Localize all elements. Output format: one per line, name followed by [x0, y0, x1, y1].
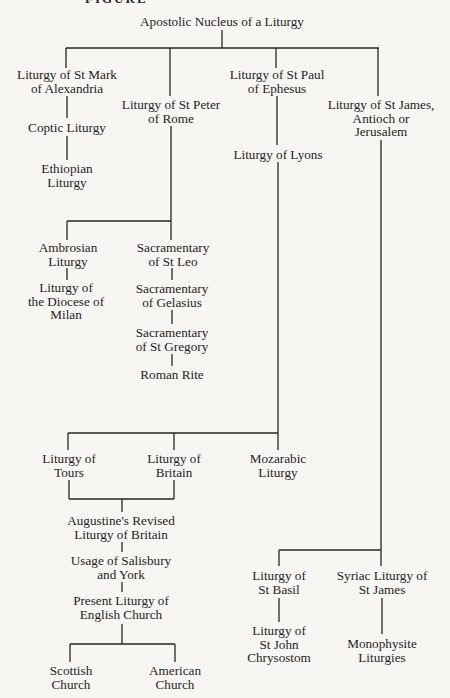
node-liturgy-st-john-chrysostom: Liturgy of St John Chrysostom — [247, 624, 311, 665]
node-label: Coptic Liturgy — [28, 121, 106, 135]
node-liturgy-of-britain: Liturgy of Britain — [147, 452, 201, 479]
node-label: Sacramentary — [136, 326, 209, 340]
node-label: Liturgy of Britain — [67, 528, 175, 542]
node-label: Monophysite — [347, 637, 417, 651]
node-monophysite-liturgies: Monophysite Liturgies — [347, 637, 417, 664]
node-liturgy-st-basil: Liturgy of St Basil — [252, 569, 306, 596]
node-label: Liturgy of — [28, 281, 104, 295]
node-label: Liturgy of — [42, 452, 96, 466]
node-label: Liturgy of Lyons — [233, 148, 322, 162]
node-apostolic-nucleus: Apostolic Nucleus of a Liturgy — [140, 15, 304, 29]
node-label: Present Liturgy of — [73, 594, 169, 608]
node-label: Liturgy of St Mark — [17, 68, 117, 82]
node-label: of Gelasius — [136, 296, 209, 310]
node-liturgy-st-james: Liturgy of St James, Antioch or Jerusale… — [328, 98, 435, 139]
node-label: Mozarabic — [250, 452, 306, 466]
node-label: of St Leo — [137, 255, 210, 269]
node-label: of Ephesus — [230, 82, 325, 96]
node-sacramentary-st-gregory: Sacramentary of St Gregory — [136, 326, 209, 353]
node-present-liturgy-english-church: Present Liturgy of English Church — [73, 594, 169, 621]
node-label: Usage of Salisbury — [71, 554, 171, 568]
node-label: Antioch or — [328, 112, 435, 126]
node-liturgy-of-tours: Liturgy of Tours — [42, 452, 96, 479]
node-label: Sacramentary — [136, 282, 209, 296]
node-label: of St Gregory — [136, 340, 209, 354]
node-sacramentary-gelasius: Sacramentary of Gelasius — [136, 282, 209, 309]
node-sacramentary-st-leo: Sacramentary of St Leo — [137, 241, 210, 268]
node-usage-salisbury-york: Usage of Salisbury and York — [71, 554, 171, 581]
node-label: Ambrosian — [39, 241, 98, 255]
node-label: St John — [247, 638, 311, 652]
node-liturgy-st-peter: Liturgy of St Peter of Rome — [122, 98, 220, 125]
node-liturgy-st-mark: Liturgy of St Mark of Alexandria — [17, 68, 117, 95]
node-scottish-church: Scottish Church — [50, 664, 93, 691]
node-label: Tours — [42, 466, 96, 480]
node-label: of Rome — [122, 112, 220, 126]
node-coptic-liturgy: Coptic Liturgy — [28, 121, 106, 135]
node-label: Syriac Liturgy of — [337, 569, 428, 583]
node-label: Liturgies — [347, 651, 417, 665]
node-label: American — [149, 664, 201, 678]
node-label: the Diocese of — [28, 295, 104, 309]
node-mozarabic-liturgy: Mozarabic Liturgy — [250, 452, 306, 479]
node-label: Scottish — [50, 664, 93, 678]
node-label: Roman Rite — [140, 368, 203, 382]
node-american-church: American Church — [149, 664, 201, 691]
node-label: Liturgy of — [252, 569, 306, 583]
node-label: Sacramentary — [137, 241, 210, 255]
node-label: Liturgy — [250, 466, 306, 480]
node-label: St James — [337, 583, 428, 597]
node-label: Liturgy of St James, — [328, 98, 435, 112]
node-label: of Alexandria — [17, 82, 117, 96]
node-diocese-of-milan: Liturgy of the Diocese of Milan — [28, 281, 104, 322]
node-augustines-revised-liturgy: Augustine's Revised Liturgy of Britain — [67, 514, 175, 541]
node-label: Chrysostom — [247, 651, 311, 665]
node-label: Ethiopian — [41, 162, 92, 176]
node-label: Church — [149, 678, 201, 692]
node-label: Liturgy — [41, 176, 92, 190]
node-label: Liturgy of St Paul — [230, 68, 325, 82]
node-syriac-liturgy-st-james: Syriac Liturgy of St James — [337, 569, 428, 596]
node-label: Liturgy — [39, 255, 98, 269]
node-liturgy-st-paul: Liturgy of St Paul of Ephesus — [230, 68, 325, 95]
node-label: Liturgy of St Peter — [122, 98, 220, 112]
node-label: Liturgy of — [247, 624, 311, 638]
node-label: and York — [71, 568, 171, 582]
node-liturgy-of-lyons: Liturgy of Lyons — [233, 148, 322, 162]
node-label: Jerusalem — [328, 125, 435, 139]
node-label: Milan — [28, 308, 104, 322]
node-label: St Basil — [252, 583, 306, 597]
node-label: Britain — [147, 466, 201, 480]
node-roman-rite: Roman Rite — [140, 368, 203, 382]
node-ethiopian-liturgy: Ethiopian Liturgy — [41, 162, 92, 189]
node-label: English Church — [73, 608, 169, 622]
node-label: Liturgy of — [147, 452, 201, 466]
liturgy-family-tree: FIGURE — [0, 0, 450, 698]
node-label: Church — [50, 678, 93, 692]
node-label: Augustine's Revised — [67, 514, 175, 528]
node-label: Apostolic Nucleus of a Liturgy — [140, 15, 304, 29]
node-ambrosian-liturgy: Ambrosian Liturgy — [39, 241, 98, 268]
